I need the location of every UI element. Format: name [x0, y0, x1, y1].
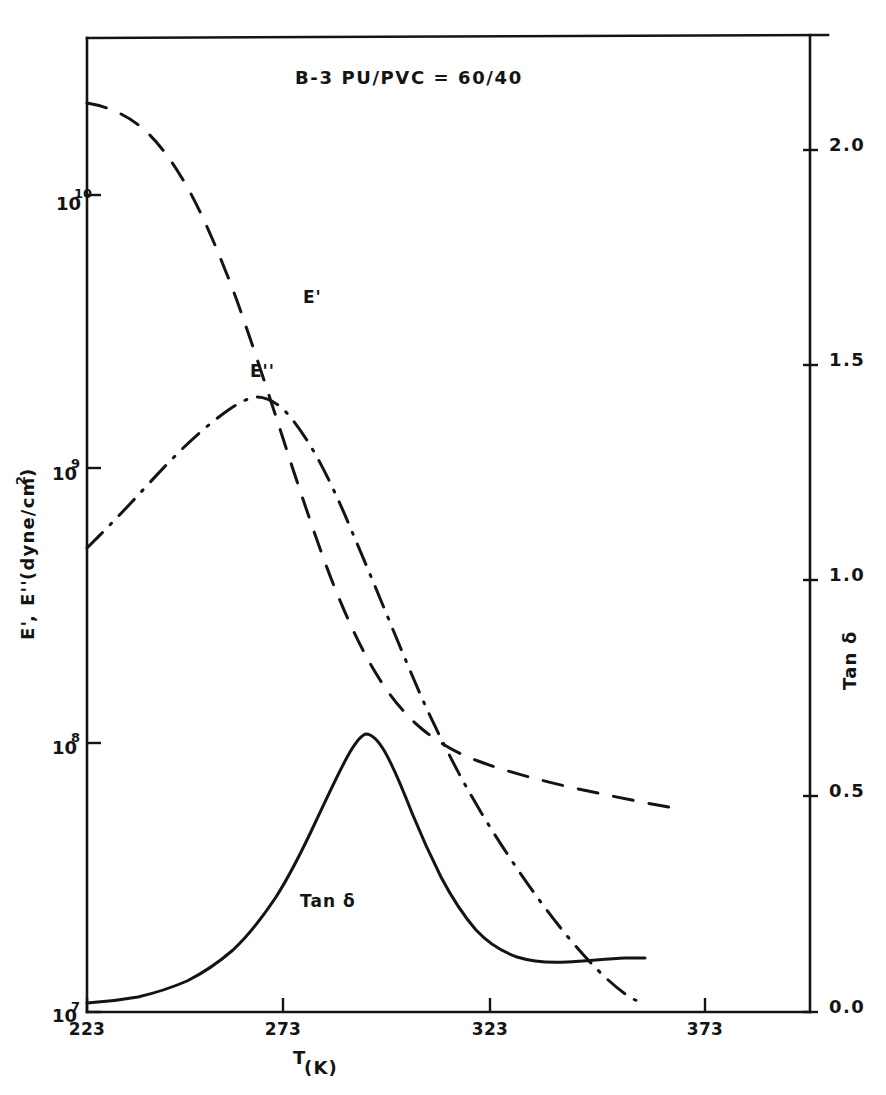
- left-axis-title-e-double-prime: E'': [17, 579, 38, 606]
- right-axis-tick-labels: 2.0 1.5 1.0 0.5 0.0: [829, 134, 865, 1017]
- series-curves: [87, 103, 680, 1003]
- curve-label-e-prime: E': [303, 287, 322, 307]
- curve-label-e-double-prime: E'': [250, 361, 275, 381]
- curve-tan-delta: [87, 734, 645, 1003]
- chart-title: B-3 PU/PVC = 60/40: [295, 67, 523, 88]
- curve-e-double-prime: [87, 397, 645, 1003]
- x-axis-tick-labels: 223 273 323 373: [69, 1019, 724, 1039]
- right-axis-title: Tan δ: [839, 630, 860, 690]
- x-axis-title: T (K): [293, 1047, 338, 1078]
- left-tick-1e10-exponent: 10: [74, 186, 92, 201]
- right-tick-label-2-0: 2.0: [829, 134, 865, 155]
- left-axis-title-unit-close: ): [17, 468, 38, 477]
- left-tick-1e9-exponent: 9: [71, 456, 80, 471]
- right-tick-label-0-5: 0.5: [829, 780, 865, 801]
- left-tick-1e7-exponent: 7: [71, 999, 80, 1014]
- x-tick-label-223: 223: [69, 1019, 106, 1039]
- plot-frame: [87, 35, 828, 1012]
- right-tick-label-1-5: 1.5: [829, 349, 865, 370]
- figure-container: 10 10 10 9 10 8 10 7 2: [0, 0, 886, 1095]
- x-tick-label-273: 273: [265, 1019, 302, 1039]
- left-tick-label-1e8: 10 8: [52, 730, 80, 758]
- frame-top: [87, 35, 828, 38]
- right-tick-label-1-0: 1.0: [829, 564, 865, 585]
- left-tick-label-1e9: 10 9: [52, 456, 80, 484]
- left-axis-ticks: [87, 195, 101, 1012]
- left-axis-title-comma: ,: [17, 614, 38, 622]
- x-tick-label-323: 323: [472, 1019, 509, 1039]
- x-axis-title-sub: (K): [304, 1057, 338, 1078]
- right-tick-label-0-0: 0.0: [829, 996, 865, 1017]
- curve-label-tan-delta: Tan δ: [300, 891, 356, 911]
- x-axis-ticks: [87, 998, 705, 1012]
- left-axis-title: E' , E'' (dyne/cm 2 ): [13, 468, 38, 640]
- x-tick-label-373: 373: [687, 1019, 724, 1039]
- dma-chart: 10 10 10 9 10 8 10 7 2: [0, 0, 886, 1095]
- left-axis-title-unit-open: (dyne/cm: [17, 477, 38, 580]
- left-tick-1e8-exponent: 8: [71, 730, 80, 745]
